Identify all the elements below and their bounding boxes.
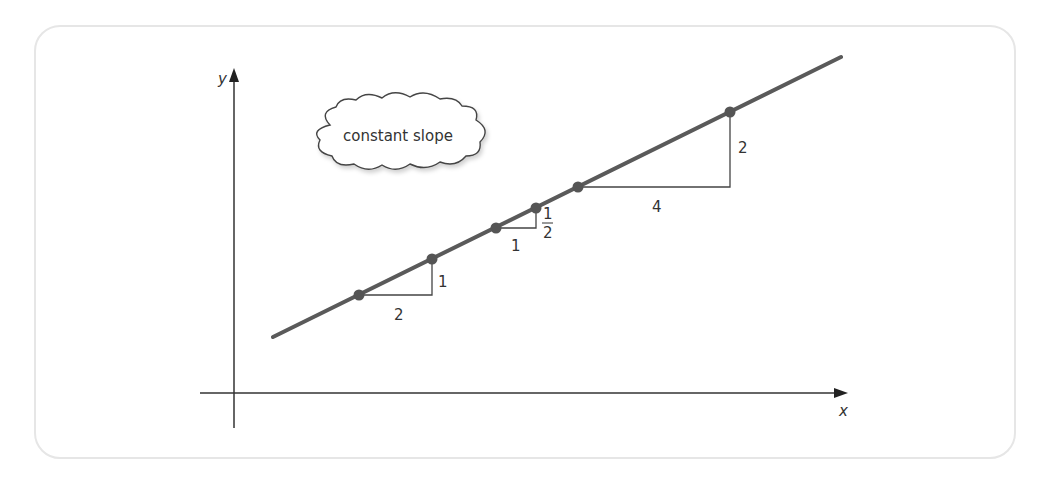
cloud-label: constant slope <box>343 127 453 145</box>
svg-text:2: 2 <box>543 224 553 242</box>
point <box>427 254 438 265</box>
x-axis-arrow-icon <box>834 388 848 398</box>
run-label-1: 1 <box>511 237 521 255</box>
point <box>531 203 542 214</box>
x-axis-label: x <box>838 402 848 420</box>
y-axis <box>229 68 239 428</box>
svg-text:1: 1 <box>543 205 553 223</box>
point <box>573 182 584 193</box>
rise-label-one-half: 1 2 <box>542 205 553 242</box>
x-axis <box>200 388 848 398</box>
run-label-2: 2 <box>394 306 404 324</box>
y-axis-label: y <box>217 70 228 88</box>
rise-label-1: 1 <box>438 273 448 291</box>
run-label-4: 4 <box>652 198 662 216</box>
point <box>354 290 365 301</box>
rise-label-2: 2 <box>738 139 748 157</box>
slope-diagram: y x 2 1 1 1 2 4 2 constant slope <box>0 0 1046 484</box>
point <box>725 107 736 118</box>
y-axis-arrow-icon <box>229 68 239 82</box>
point <box>491 223 502 234</box>
